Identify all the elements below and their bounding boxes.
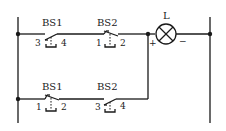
switch-bs2-bottom xyxy=(104,99,148,112)
terminal-bs1-bottom-left: 1 xyxy=(36,102,42,112)
terminal-bs2-top-left: 1 xyxy=(96,38,102,48)
lamp xyxy=(156,24,176,44)
label-bs1-bottom: BS1 xyxy=(42,81,63,92)
circuit-diagram: BS1 3 4 BS2 1 2 L + − BS1 1 2 xyxy=(0,0,226,131)
terminal-bs1-top-left: 3 xyxy=(35,38,41,48)
lamp-minus: − xyxy=(179,36,187,46)
label-bs2-bottom: BS2 xyxy=(97,81,118,92)
switch-bs2-top xyxy=(104,31,148,47)
terminal-bs2-bottom-left: 3 xyxy=(95,102,101,112)
lamp-label: L xyxy=(163,10,170,21)
lamp-plus: + xyxy=(149,38,157,48)
terminal-bs2-bottom-right: 4 xyxy=(120,101,126,111)
label-bs1-top: BS1 xyxy=(42,17,63,28)
terminal-bs1-top-right: 4 xyxy=(61,38,67,48)
terminal-bs2-top-right: 2 xyxy=(120,38,126,48)
label-bs2-top: BS2 xyxy=(97,17,118,28)
terminal-bs1-bottom-right: 2 xyxy=(61,102,67,112)
